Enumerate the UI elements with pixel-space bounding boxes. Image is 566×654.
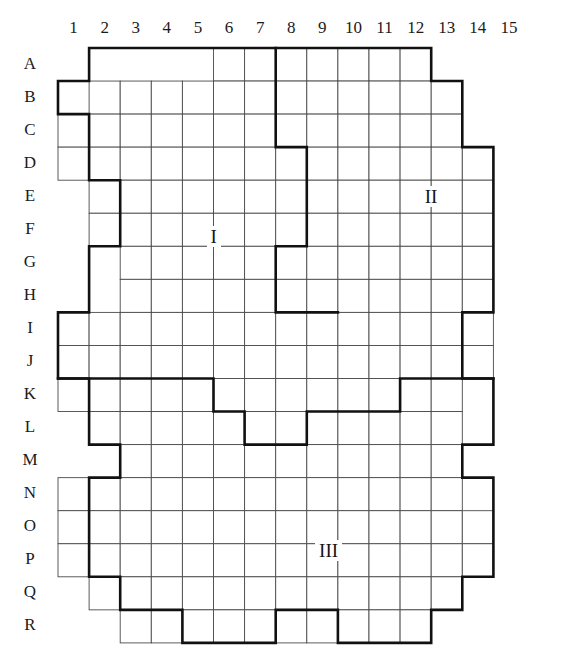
grid-cell-D10[interactable] <box>338 147 369 180</box>
grid-cell-F8[interactable] <box>276 213 307 246</box>
grid-cell-E7[interactable] <box>245 180 276 213</box>
grid-cell-G11[interactable] <box>369 246 400 279</box>
grid-cell-I3[interactable] <box>120 312 151 345</box>
grid-cell-M7[interactable] <box>245 445 276 478</box>
grid-cell-O8[interactable] <box>276 511 307 544</box>
grid-cell-F2[interactable] <box>89 213 120 246</box>
grid-cell-I1[interactable] <box>58 312 89 345</box>
grid-cell-O12[interactable] <box>400 511 431 544</box>
grid-cell-I13[interactable] <box>431 312 462 345</box>
grid-cell-P3[interactable] <box>120 544 151 577</box>
grid-cell-A7[interactable] <box>245 48 276 81</box>
grid-cell-I7[interactable] <box>245 312 276 345</box>
grid-cell-R9[interactable] <box>307 610 338 643</box>
grid-cell-L4[interactable] <box>151 412 182 445</box>
grid-cell-L6[interactable] <box>214 412 245 445</box>
grid-cell-B6[interactable] <box>214 81 245 114</box>
grid-cell-J14[interactable] <box>462 345 493 378</box>
grid-cell-H3[interactable] <box>120 279 151 312</box>
grid-cell-K6[interactable] <box>214 379 245 412</box>
grid-cell-K12[interactable] <box>400 379 431 412</box>
grid-cell-Q3[interactable] <box>120 577 151 610</box>
grid-cell-K5[interactable] <box>182 379 213 412</box>
grid-cell-J12[interactable] <box>400 345 431 378</box>
grid-cell-G3[interactable] <box>120 246 151 279</box>
grid-cell-N5[interactable] <box>182 478 213 511</box>
grid-cell-C1[interactable] <box>58 114 89 147</box>
grid-cell-J11[interactable] <box>369 345 400 378</box>
grid-cell-D2[interactable] <box>89 147 120 180</box>
grid-cell-C4[interactable] <box>151 114 182 147</box>
grid-cell-B9[interactable] <box>307 81 338 114</box>
grid-cell-N10[interactable] <box>338 478 369 511</box>
grid-cell-G14[interactable] <box>462 246 493 279</box>
grid-cell-O6[interactable] <box>214 511 245 544</box>
grid-cell-M12[interactable] <box>400 445 431 478</box>
grid-cell-C7[interactable] <box>245 114 276 147</box>
grid-cell-N13[interactable] <box>431 478 462 511</box>
grid-cell-I4[interactable] <box>151 312 182 345</box>
grid-cell-M5[interactable] <box>182 445 213 478</box>
grid-cell-G9[interactable] <box>307 246 338 279</box>
grid-cell-L2[interactable] <box>89 412 120 445</box>
grid-cell-C8[interactable] <box>276 114 307 147</box>
grid-cell-K10[interactable] <box>338 379 369 412</box>
grid-cell-H14[interactable] <box>462 279 493 312</box>
grid-cell-G4[interactable] <box>151 246 182 279</box>
grid-cell-L11[interactable] <box>369 412 400 445</box>
grid-cell-O5[interactable] <box>182 511 213 544</box>
grid-cell-O9[interactable] <box>307 511 338 544</box>
grid-cell-G7[interactable] <box>245 246 276 279</box>
grid-cell-H11[interactable] <box>369 279 400 312</box>
grid-cell-I5[interactable] <box>182 312 213 345</box>
grid-cell-R11[interactable] <box>369 610 400 643</box>
grid-cell-N8[interactable] <box>276 478 307 511</box>
grid-cell-N12[interactable] <box>400 478 431 511</box>
grid-cell-K2[interactable] <box>89 379 120 412</box>
grid-cell-E4[interactable] <box>151 180 182 213</box>
grid-cell-Q10[interactable] <box>338 577 369 610</box>
grid-cell-H12[interactable] <box>400 279 431 312</box>
grid-cell-R6[interactable] <box>214 610 245 643</box>
grid-cell-M9[interactable] <box>307 445 338 478</box>
grid-cell-D4[interactable] <box>151 147 182 180</box>
grid-cell-B4[interactable] <box>151 81 182 114</box>
grid-cell-F11[interactable] <box>369 213 400 246</box>
grid-cell-I14[interactable] <box>462 312 493 345</box>
grid-cell-I11[interactable] <box>369 312 400 345</box>
grid-cell-L9[interactable] <box>307 412 338 445</box>
grid-cell-I6[interactable] <box>214 312 245 345</box>
grid-cell-A9[interactable] <box>307 48 338 81</box>
grid-cell-H6[interactable] <box>214 279 245 312</box>
grid-cell-Q4[interactable] <box>151 577 182 610</box>
grid-cell-L7[interactable] <box>245 412 276 445</box>
grid-cell-E3[interactable] <box>120 180 151 213</box>
grid-cell-Q2[interactable] <box>89 577 120 610</box>
grid-cell-J4[interactable] <box>151 345 182 378</box>
grid-cell-P13[interactable] <box>431 544 462 577</box>
grid-cell-N11[interactable] <box>369 478 400 511</box>
grid-cell-I12[interactable] <box>400 312 431 345</box>
grid-cell-N1[interactable] <box>58 478 89 511</box>
grid-cell-B5[interactable] <box>182 81 213 114</box>
grid-cell-O2[interactable] <box>89 511 120 544</box>
grid-cell-H7[interactable] <box>245 279 276 312</box>
grid-cell-O3[interactable] <box>120 511 151 544</box>
grid-cell-J7[interactable] <box>245 345 276 378</box>
grid-cell-D1[interactable] <box>58 147 89 180</box>
grid-cell-E10[interactable] <box>338 180 369 213</box>
grid-cell-Q12[interactable] <box>400 577 431 610</box>
grid-cell-P5[interactable] <box>182 544 213 577</box>
grid-cell-N7[interactable] <box>245 478 276 511</box>
grid-cell-M13[interactable] <box>431 445 462 478</box>
grid-cell-M8[interactable] <box>276 445 307 478</box>
grid-cell-B7[interactable] <box>245 81 276 114</box>
grid-cell-C2[interactable] <box>89 114 120 147</box>
grid-cell-B8[interactable] <box>276 81 307 114</box>
grid-cell-Q9[interactable] <box>307 577 338 610</box>
grid-cell-Q5[interactable] <box>182 577 213 610</box>
grid-cell-G13[interactable] <box>431 246 462 279</box>
grid-cell-O1[interactable] <box>58 511 89 544</box>
grid-cell-P4[interactable] <box>151 544 182 577</box>
grid-cell-B10[interactable] <box>338 81 369 114</box>
